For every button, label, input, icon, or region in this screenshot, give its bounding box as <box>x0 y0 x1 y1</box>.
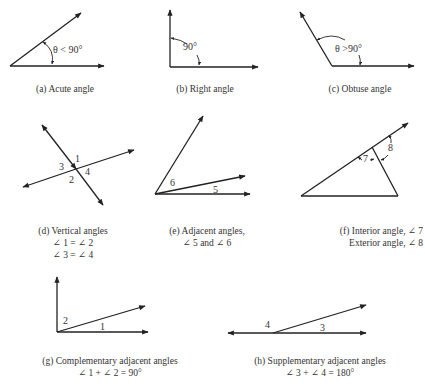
angle-g1-label: 1 <box>100 321 105 332</box>
caption-f: (f) Interior angle, ∠ 7 Exterior angle, … <box>298 225 423 249</box>
angle-4-label: 4 <box>85 166 90 177</box>
angle-5-label: 5 <box>213 184 218 195</box>
angle-6-label: 6 <box>170 177 175 188</box>
caption-c: (c) Obtuse angle <box>300 83 420 95</box>
acute-angle-label: θ < 90° <box>53 44 82 55</box>
caption-a: (a) Acute angle <box>10 83 120 95</box>
angle-g2-label: 2 <box>63 315 68 326</box>
angle-1-label: 1 <box>75 153 80 164</box>
caption-e-line2: ∠ 5 and ∠ 6 <box>152 237 262 249</box>
supplementary-angles-figure <box>228 305 366 333</box>
caption-e: (e) Adjacent angles, ∠ 5 and ∠ 6 <box>152 225 262 249</box>
caption-d-title: (d) Vertical angles <box>18 225 128 237</box>
caption-d-line3: ∠ 3 = ∠ 4 <box>18 249 128 261</box>
angle-h4-label: 4 <box>265 319 270 330</box>
caption-f-line2: Exterior angle, ∠ 8 <box>298 237 423 249</box>
caption-f-title: (f) Interior angle, ∠ 7 <box>298 225 423 237</box>
obtuse-angle-figure <box>300 12 414 66</box>
caption-b: (b) Right angle <box>150 83 260 95</box>
caption-d-line2: ∠ 1 = ∠ 2 <box>18 237 128 249</box>
caption-g: (g) Complementary adjacent angles ∠ 1 + … <box>15 355 205 379</box>
caption-h: (h) Supplementary adjacent angles ∠ 3 + … <box>225 355 415 379</box>
angle-2-label: 2 <box>69 174 74 185</box>
right-angle-figure <box>170 10 258 67</box>
angle-h3-label: 3 <box>320 322 325 333</box>
angle-8-label: 8 <box>388 142 393 153</box>
obtuse-angle-label: θ >90° <box>335 43 362 54</box>
angle-7-label: 7 <box>363 153 368 164</box>
caption-h-line2: ∠ 3 + ∠ 4 = 180° <box>225 367 415 379</box>
vertical-angles-figure <box>23 125 134 205</box>
caption-e-title: (e) Adjacent angles, <box>152 225 262 237</box>
caption-d: (d) Vertical angles ∠ 1 = ∠ 2 ∠ 3 = ∠ 4 <box>18 225 128 261</box>
caption-h-title: (h) Supplementary adjacent angles <box>225 355 415 367</box>
interior-exterior-angle-figure <box>301 123 408 196</box>
caption-g-title: (g) Complementary adjacent angles <box>15 355 205 367</box>
right-angle-label: 90° <box>183 41 197 52</box>
caption-g-line2: ∠ 1 + ∠ 2 = 90° <box>15 367 205 379</box>
angle-3-label: 3 <box>59 161 64 172</box>
acute-angle-figure <box>10 13 104 66</box>
angle-diagrams: θ < 90° 90° θ >90° 1 2 3 4 5 6 7 8 1 2 3… <box>0 0 425 388</box>
